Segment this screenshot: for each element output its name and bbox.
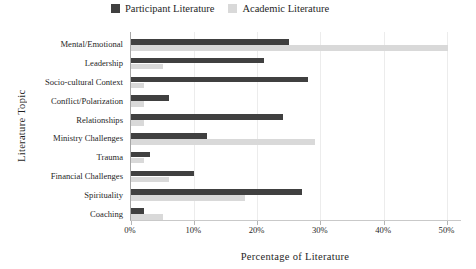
- category-label: Ministry Challenges: [0, 133, 123, 144]
- bar-segment: [131, 58, 264, 64]
- category-label: Socio-cultural Context: [0, 77, 123, 88]
- bar-segment: [131, 120, 144, 126]
- category-label: Conflict/Polarization: [0, 96, 123, 107]
- category-label: Financial Challenges: [0, 171, 123, 182]
- bar-segment: [131, 158, 144, 164]
- legend-item: Academic Literature: [228, 3, 329, 14]
- bar-segment: [131, 39, 289, 45]
- x-tick-label: 40%: [363, 225, 403, 235]
- x-tick-label: 30%: [300, 225, 340, 235]
- category-axis: Mental/EmotionalLeadershipSocio-cultural…: [0, 32, 126, 220]
- x-tick-label: 0%: [110, 225, 150, 235]
- bar-segment: [131, 114, 283, 120]
- category-label: Spirituality: [0, 190, 123, 201]
- gridline: [320, 32, 321, 220]
- bar-segment: [131, 77, 308, 83]
- legend-label: Academic Literature: [242, 3, 329, 14]
- category-label: Coaching: [0, 209, 123, 220]
- bar-segment: [131, 208, 144, 214]
- bar-segment: [131, 95, 169, 101]
- bar-segment: [131, 171, 194, 177]
- x-tick-label: 10%: [173, 225, 213, 235]
- bar-chart-figure: Participant LiteratureAcademic Literatur…: [0, 0, 476, 269]
- legend-swatch: [111, 4, 120, 13]
- gridline: [447, 32, 448, 220]
- bar-segment: [131, 152, 150, 158]
- category-label: Relationships: [0, 115, 123, 126]
- bar-segment: [131, 133, 207, 139]
- bar-segment: [131, 177, 169, 183]
- bar-segment: [131, 139, 315, 145]
- chart-legend: Participant LiteratureAcademic Literatur…: [0, 3, 458, 14]
- category-label: Leadership: [0, 58, 123, 69]
- bar-segment: [131, 64, 163, 70]
- bar-segment: [131, 83, 144, 89]
- x-tick-label: 20%: [237, 225, 277, 235]
- bar-segment: [131, 214, 163, 220]
- legend-item: Participant Literature: [111, 3, 215, 14]
- legend-swatch: [228, 4, 237, 13]
- legend-label: Participant Literature: [125, 3, 215, 14]
- bar-segment: [131, 189, 302, 195]
- category-label: Trauma: [0, 152, 123, 163]
- x-axis-ticks: 0%10%20%30%40%50%: [130, 225, 460, 237]
- plot-area: [130, 32, 461, 221]
- bar-segment: [131, 101, 144, 107]
- x-tick-label: 50%: [427, 225, 467, 235]
- category-label: Mental/Emotional: [0, 39, 123, 50]
- x-axis-title: Percentage of Literature: [130, 251, 460, 262]
- bar-segment: [131, 45, 448, 51]
- bar-segment: [131, 195, 245, 201]
- gridline: [384, 32, 385, 220]
